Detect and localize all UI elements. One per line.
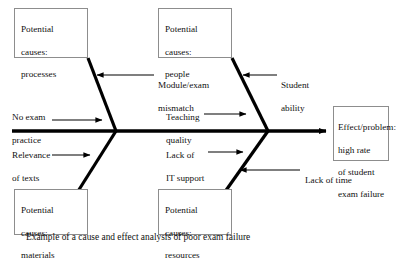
cause-box-materials-line-1: Potential	[21, 205, 82, 216]
effect-box-line-1: Effect/problem:	[338, 122, 385, 133]
label-lack-of-it-support-line-1: Lack of	[166, 150, 228, 161]
rib-materials	[75, 131, 116, 196]
label-module-exam-mismatch-line-1: Module/exam	[158, 80, 238, 91]
label-student-ability-line-1: Student	[281, 80, 341, 91]
cause-box-people[interactable]: Potential causes: people	[158, 8, 232, 58]
cause-box-materials[interactable]: Potential causes: materials	[14, 189, 88, 235]
cause-box-processes-line-2: causes:	[21, 47, 82, 58]
effect-box-line-2: high rate	[338, 145, 385, 156]
cause-box-materials-line-3: materials	[21, 250, 82, 261]
effect-box[interactable]: Effect/problem: high rate of student exa…	[333, 106, 389, 161]
cause-box-people-line-2: causes:	[165, 47, 226, 58]
label-relevance-of-texts-line-2: of texts	[12, 173, 74, 184]
label-lack-of-it-support: Lack of IT support	[166, 139, 228, 195]
label-no-exam-practice-line-1: No exam	[12, 112, 72, 123]
label-lack-of-it-support-line-2: IT support	[166, 173, 228, 184]
label-student-ability-line-2: ability	[281, 103, 341, 114]
cause-box-resources-line-3: resources	[165, 250, 226, 261]
rib-resources	[222, 131, 268, 196]
label-relevance-of-texts-line-1: Relevance	[12, 150, 74, 161]
label-teaching-quality-line-1: Teaching	[166, 112, 226, 123]
label-relevance-of-texts: Relevance of texts	[12, 139, 74, 195]
cause-box-resources[interactable]: Potential causes: resources	[158, 189, 232, 235]
cause-box-processes-line-1: Potential	[21, 24, 82, 35]
label-lack-of-time: Lack of time	[305, 164, 379, 198]
cause-box-processes-line-3: processes	[21, 69, 82, 80]
diagram-caption: Example of a cause and effect analysis o…	[26, 232, 366, 243]
cause-box-processes[interactable]: Potential causes: processes	[14, 8, 88, 58]
label-student-ability: Student ability	[281, 69, 341, 125]
label-lack-of-time-line-1: Lack of time	[305, 175, 379, 186]
cause-box-people-line-1: Potential	[165, 24, 226, 35]
cause-box-resources-line-1: Potential	[165, 205, 226, 216]
